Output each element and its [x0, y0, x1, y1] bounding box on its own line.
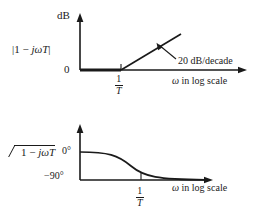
phase-y-axis-label-variable: jωT — [38, 146, 55, 158]
phase-angle-curve — [80, 152, 205, 180]
magnitude-x-axis-label: ω in log scale — [172, 76, 227, 86]
magnitude-curve-label: |1 − jωT| — [12, 44, 51, 55]
phase-break-frequency-label: 1 T — [136, 186, 144, 208]
magnitude-y-axis-label: dB — [57, 10, 70, 21]
magnitude-curve-label-variable: jωT — [31, 43, 48, 55]
angle-operator-icon: 1 − jωT — [14, 145, 55, 158]
magnitude-x-axis-label-variable: ω — [172, 75, 179, 86]
slope-leader-arrow — [157, 43, 177, 59]
phase-zero-degree-label: 0° — [62, 146, 71, 156]
phase-x-axis-label-variable: ω — [172, 182, 179, 193]
magnitude-y-axis — [77, 13, 84, 70]
magnitude-high-frequency-asymptote — [121, 34, 181, 70]
phase-y-axis-label-prefix: 1 − — [21, 146, 38, 158]
phase-break-frequency-numerator: 1 — [136, 186, 144, 197]
magnitude-zero-tick-label: 0 — [64, 64, 70, 75]
magnitude-x-axis-label-rest: in log scale — [179, 75, 227, 86]
bode-plot-figure: dB |1 − jωT| 0 1 T 20 dB/decade ω in log… — [0, 0, 255, 219]
magnitude-break-frequency-denominator: T — [115, 85, 123, 97]
phase-x-axis-label: ω in log scale — [172, 183, 227, 193]
phase-y-axis-label: 1 − jωT — [14, 145, 55, 158]
phase-break-frequency-denominator: T — [136, 197, 144, 209]
phase-x-axis-label-rest: in log scale — [179, 182, 227, 193]
magnitude-break-frequency-label: 1 T — [115, 74, 123, 96]
magnitude-curve-label-prefix: |1 − — [12, 43, 31, 55]
magnitude-break-frequency-numerator: 1 — [115, 74, 123, 85]
magnitude-curve-label-suffix: | — [48, 43, 50, 55]
phase-minus-ninety-degree-label: −90° — [44, 171, 64, 181]
slope-annotation-label: 20 dB/decade — [178, 56, 233, 66]
